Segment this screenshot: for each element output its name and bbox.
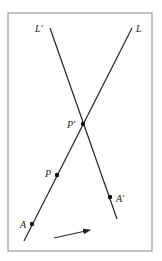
translation-arrow-icon — [54, 230, 90, 238]
point-A-prime — [108, 195, 112, 199]
point-A — [30, 222, 34, 226]
label-A-prime: A′ — [115, 193, 125, 204]
line-L — [24, 28, 132, 241]
label-A: A — [19, 219, 27, 230]
label-P-prime: P′ — [66, 119, 76, 130]
figure-frame — [8, 13, 152, 251]
diagram-canvas: L L′ P′ P A A′ — [0, 0, 162, 261]
label-L-prime: L′ — [34, 23, 44, 34]
label-L: L — [135, 23, 142, 34]
point-P-prime — [81, 122, 85, 126]
point-P — [55, 173, 59, 177]
label-P: P — [44, 168, 51, 179]
